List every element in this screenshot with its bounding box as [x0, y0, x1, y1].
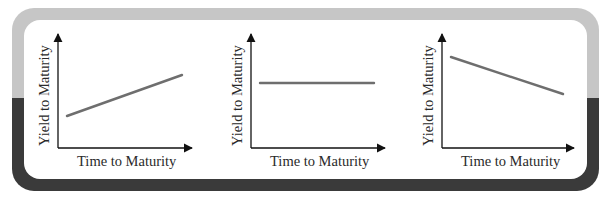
y-axis-label: Yield to Maturity: [229, 45, 245, 146]
x-axis-label: Time to Maturity: [461, 153, 561, 169]
yield-curve-diagram: Yield to Maturity Time to Maturity Yield…: [0, 0, 611, 199]
yield-curve-line: [451, 57, 563, 94]
y-axis-label: Yield to Maturity: [36, 45, 52, 146]
x-axis-label: Time to Maturity: [77, 153, 177, 169]
y-axis-label: Yield to Maturity: [420, 45, 436, 146]
yield-curve-line: [67, 75, 182, 116]
x-axis-label: Time to Maturity: [270, 153, 370, 169]
chart-upward-sloping: Yield to Maturity Time to Maturity: [36, 34, 192, 169]
chart-downward-sloping: Yield to Maturity Time to Maturity: [420, 34, 574, 169]
chart-flat: Yield to Maturity Time to Maturity: [229, 34, 385, 169]
